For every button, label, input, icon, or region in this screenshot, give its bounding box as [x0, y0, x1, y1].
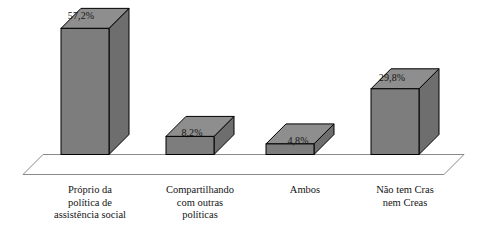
value-label: 4,8% — [263, 135, 333, 146]
bar-chart: 57,2% 8,2% 4,8% 29,8% Próprio da polític… — [0, 0, 485, 236]
category-label-3: Não tem Cras nem Creas — [345, 184, 465, 209]
bar-front-face — [166, 136, 214, 154]
bar-column — [61, 8, 129, 154]
bar-front-face — [371, 89, 419, 155]
value-label: 29,8% — [357, 72, 427, 83]
category-label-line: Não tem Cras — [345, 184, 465, 197]
category-label-line: com outras — [135, 197, 265, 210]
bar-side-face — [109, 8, 129, 154]
category-label-line: Compartilhando — [135, 184, 265, 197]
category-label-line: políticas — [135, 209, 265, 222]
category-label-2: Ambos — [250, 184, 360, 197]
bar-front-face — [61, 28, 109, 154]
category-label-line: Ambos — [250, 184, 360, 197]
category-label-line: nem Creas — [345, 197, 465, 210]
value-label: 57,2% — [46, 10, 116, 21]
floor-plane — [23, 155, 464, 175]
value-label: 8,2% — [157, 127, 227, 138]
category-label-1: Compartilhando com outras políticas — [135, 184, 265, 222]
